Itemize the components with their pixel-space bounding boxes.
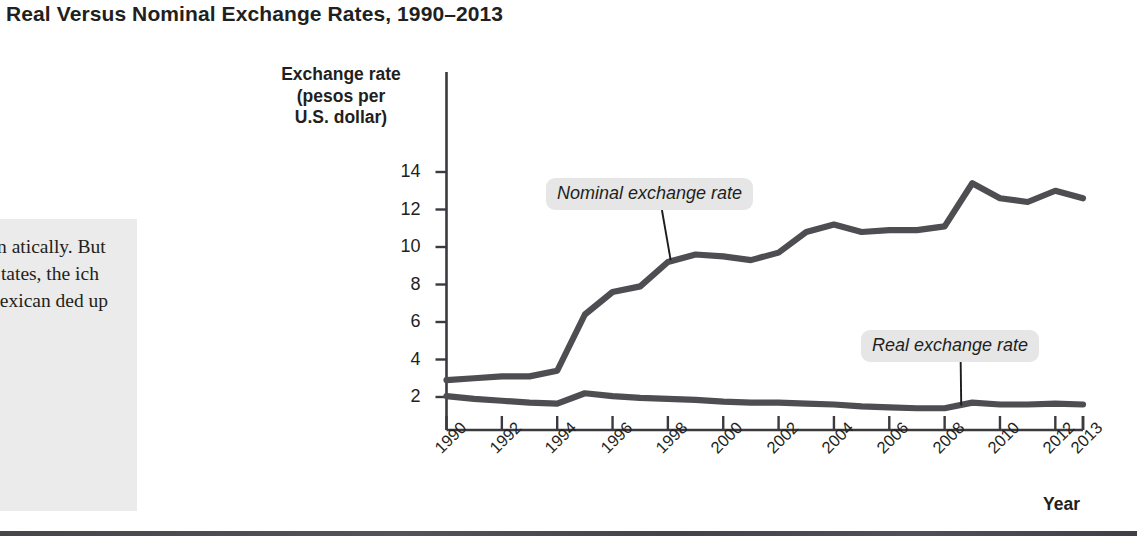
figure-root: Real Versus Nominal Exchange Rates, 1990…: [0, 0, 1137, 548]
y-tick-label: 12: [387, 199, 421, 220]
y-tick-label: 8: [387, 274, 421, 295]
y-tick-label: 10: [387, 236, 421, 257]
y-tick-label: 4: [387, 349, 421, 370]
y-tick-label: 2: [387, 386, 421, 407]
bottom-rule: [0, 531, 1137, 536]
series-line-real-exchange-rate: [447, 393, 1084, 408]
chart-plot-area: [0, 0, 1137, 548]
annotation-leader-line: [961, 362, 962, 405]
annotation-callout: Nominal exchange rate: [546, 178, 753, 210]
y-tick-label: 6: [387, 311, 421, 332]
annotation-leader-line: [662, 210, 671, 260]
y-tick-label: 14: [387, 161, 421, 182]
annotation-callout: Real exchange rate: [861, 330, 1039, 362]
